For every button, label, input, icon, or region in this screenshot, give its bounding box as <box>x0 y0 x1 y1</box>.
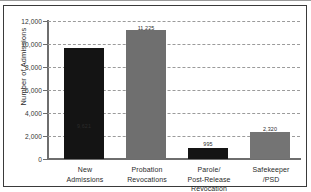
y-tick-mark-8000 <box>43 67 47 68</box>
bar-value-new-admissions: 9,621 <box>64 123 104 129</box>
bar-new-admissions[interactable] <box>64 48 104 159</box>
x-tick-label-safekeeper-psd: Safekeeper /PSD <box>234 165 308 184</box>
bar-probation-revocations[interactable] <box>126 30 166 159</box>
y-tick-label-4000: 4,000 <box>4 110 42 117</box>
y-tick-label-12000: 12,000 <box>4 18 42 25</box>
top-rule-divider <box>0 0 311 1</box>
bar-value-probation-revocations: 11,225 <box>126 25 166 31</box>
bar-value-safekeeper-psd: 2,320 <box>250 126 290 132</box>
gridline-10000 <box>48 44 300 45</box>
y-tick-label-2000: 2,000 <box>4 133 42 140</box>
gridline-12000 <box>48 21 300 22</box>
bar-value-parole-post-release-revocation: 995 <box>188 141 228 147</box>
y-tick-mark-10000 <box>43 44 47 45</box>
y-tick-label-0: 0 <box>4 156 42 163</box>
y-tick-mark-4000 <box>43 113 47 114</box>
y-tick-label-10000: 10,000 <box>4 41 42 48</box>
chart-panel: Number of Admissions 12,000 10,000 8,000… <box>3 5 307 187</box>
y-tick-mark-0 <box>43 159 47 160</box>
y-tick-mark-6000 <box>43 90 47 91</box>
chart-figure: Number of Admissions 12,000 10,000 8,000… <box>0 0 311 192</box>
bar-safekeeper-psd[interactable] <box>250 132 290 159</box>
y-tick-label-6000: 6,000 <box>4 87 42 94</box>
y-tick-label-8000: 8,000 <box>4 64 42 71</box>
bar-parole-post-release-revocation[interactable] <box>188 148 228 159</box>
y-tick-mark-12000 <box>43 21 47 22</box>
plot-area: 9,621 11,225 995 2,320 <box>48 21 300 159</box>
y-tick-mark-2000 <box>43 136 47 137</box>
